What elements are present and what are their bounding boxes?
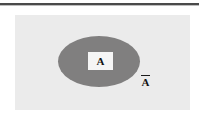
venn-diagram-figure: A A xyxy=(0,0,199,123)
complement-label: A xyxy=(139,74,153,92)
top-divider-rule-shadow xyxy=(0,5,199,6)
set-a-label: A xyxy=(88,52,113,70)
complement-label-letter: A xyxy=(139,77,152,88)
